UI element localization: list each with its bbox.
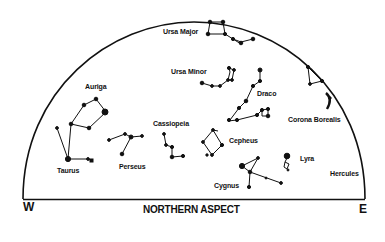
label-ursa-major: Ursa Major <box>163 28 198 35</box>
cassiopeia-figure <box>163 133 185 159</box>
chart-title: NORTHERN ASPECT <box>143 204 240 215</box>
label-perseus: Perseus <box>119 163 146 170</box>
label-cygnus: Cygnus <box>214 182 239 189</box>
label-taurus: Taurus <box>57 167 79 174</box>
label-corona-borealis: Corona Borealis <box>288 116 341 123</box>
lyra-figure <box>284 153 290 171</box>
label-auriga: Auriga <box>85 83 107 90</box>
taurus-figure <box>56 124 93 162</box>
perseus-figure <box>108 133 144 156</box>
label-hercules: Hercules <box>330 170 359 177</box>
cepheus-figure <box>202 129 224 157</box>
east-marker: E <box>359 202 367 216</box>
cygnus-figure <box>239 157 282 189</box>
label-lyra: Lyra <box>300 155 314 162</box>
label-ursa-minor: Ursa Minor <box>171 68 207 75</box>
label-cassiopeia: Cassiopeia <box>153 120 189 127</box>
label-draco: Draco <box>257 90 276 97</box>
label-cepheus: Cepheus <box>229 137 258 144</box>
west-marker: W <box>23 200 34 214</box>
auriga-figure <box>69 97 108 130</box>
